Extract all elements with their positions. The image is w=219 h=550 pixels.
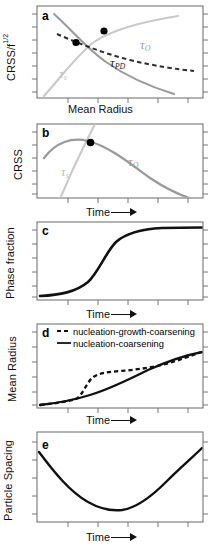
legend-label-nucleation-growth-coarsening: nucleation-growth-coarsening	[73, 327, 195, 337]
panel-c-plot	[28, 220, 213, 306]
panel-b-plot: τs τO	[28, 122, 213, 204]
panel-a-frame	[37, 6, 203, 98]
panel-b: CRSS b	[0, 122, 219, 218]
panel-b-y-ticks	[32, 132, 37, 194]
panel-a-xlabel: Mean Radius	[68, 103, 133, 115]
panel-e-xlabel: Time	[86, 531, 137, 543]
panel-d-frame	[37, 324, 203, 408]
panel-e-ylabel: Particle Spacing	[2, 432, 16, 528]
panel-c-frame	[37, 222, 203, 300]
panel-d-xlabel: Time	[86, 414, 137, 426]
panel-a-plot: τs τO τPD	[28, 4, 213, 104]
multi-panel-figure: CRSS/f1/2 a	[0, 0, 219, 550]
panel-a-ylabel: CRSS/f1/2	[2, 14, 16, 100]
panel-a-marker-2	[100, 27, 107, 34]
panel-b-marker-1	[87, 139, 95, 147]
panel-b-letter: b	[42, 126, 49, 140]
panel-b-xlabel: Time	[86, 206, 137, 218]
panel-d: Mean Radius d nucleation-gro	[0, 322, 219, 427]
panel-b-frame	[37, 124, 203, 198]
panel-c-xlabel: Time	[86, 308, 137, 320]
arrow-icon	[111, 310, 137, 319]
panel-a: CRSS/f1/2 a	[0, 0, 219, 118]
panel-c: Phase fraction c	[0, 220, 219, 318]
panel-e-frame	[37, 432, 203, 522]
panel-e-y-ticks-right	[203, 442, 208, 514]
panel-e: Particle Spacing e	[0, 430, 219, 550]
arrow-icon	[111, 533, 137, 542]
panel-c-y-ticks-right	[203, 230, 208, 297]
panel-a-marker-1	[72, 39, 79, 46]
panel-b-x-ticks	[68, 198, 188, 203]
panel-d-letter: d	[42, 326, 49, 340]
panel-b-y-ticks-right	[203, 132, 208, 194]
legend-label-nucleation-coarsening: nucleation-coarsening	[73, 339, 164, 349]
panel-c-ylabel: Phase fraction	[4, 222, 18, 304]
panel-e-y-ticks	[32, 442, 37, 514]
panel-d-y-ticks	[32, 332, 37, 405]
panel-b-ylabel: CRSS	[12, 130, 26, 200]
panel-e-letter: e	[42, 438, 49, 452]
arrow-icon	[111, 416, 137, 425]
panel-a-y-ticks	[32, 14, 37, 92]
panel-a-y-ticks-right	[203, 14, 208, 92]
arrow-icon	[111, 208, 137, 217]
panel-c-y-ticks	[32, 230, 37, 297]
panel-c-x-ticks	[68, 300, 188, 305]
panel-a-letter: a	[42, 9, 49, 23]
panel-d-y-ticks-right	[203, 332, 208, 405]
panel-e-plot	[28, 430, 213, 532]
panel-d-x-ticks	[68, 408, 188, 413]
panel-c-letter: c	[42, 224, 49, 238]
panel-d-ylabel: Mean Radius	[6, 326, 20, 412]
panel-d-plot: nucleation-growth-coarsening nucleation-…	[28, 322, 213, 414]
panel-e-x-ticks	[68, 522, 188, 527]
